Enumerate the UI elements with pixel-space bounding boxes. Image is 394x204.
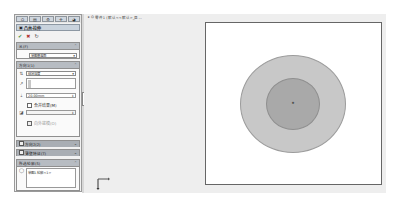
spinner-icon[interactable]: ⇕ <box>71 111 74 115</box>
reverse-direction-icon[interactable]: ⇅ <box>19 71 24 76</box>
cancel-button[interactable]: ✖ <box>26 33 30 39</box>
chevron-down-icon: ▾ <box>72 72 74 76</box>
manager-tabs: ⛭ ▤ ⚙ ✛ ◕ <box>15 15 81 23</box>
draft-outward-checkbox[interactable] <box>27 121 32 126</box>
from-start-value: 草图基准面 <box>31 53 46 58</box>
from-group-header[interactable]: 从(F) ⌃ <box>17 43 79 50</box>
detail-preview-button[interactable]: ↻ <box>34 33 38 39</box>
end-condition-value: 给定深度 <box>28 71 40 76</box>
feature-tree-breadcrumb[interactable]: ▸ ⛭ 零件1 (默认<<默认>_显... <box>88 14 142 20</box>
dimxpert-icon: ✛ <box>59 17 62 22</box>
property-manager-panel: ⛭ ▤ ⚙ ✛ ◕ ▣ 凸台-拉伸 ✔ ✖ ↻ 从(F) ⌃ 草图基准面 ▾ 方… <box>14 14 82 192</box>
feature-manager-icon: ⛭ <box>21 17 24 22</box>
reference-triad-icon <box>96 176 110 190</box>
extrude-icon: ▣ <box>19 25 23 30</box>
part-icon: ⛭ <box>91 15 94 19</box>
merge-result-checkbox[interactable] <box>27 103 32 108</box>
direction-vector-icon: ↗ <box>19 81 24 86</box>
direction2-checkbox[interactable] <box>19 141 24 146</box>
direction2-group: 方向2(2) ⌄ <box>16 140 80 147</box>
contour-icon: ◯ <box>19 168 24 173</box>
end-condition-dropdown[interactable]: 给定深度 ▾ <box>26 71 76 76</box>
expand-icon[interactable]: ⌄ <box>74 142 77 146</box>
chevron-down-icon: ▾ <box>73 54 75 58</box>
from-header-label: 从(F) <box>19 44 28 49</box>
thin-feature-group: 薄壁特征(T) ⌄ <box>16 149 80 156</box>
collapse-icon[interactable]: ⌃ <box>74 63 77 67</box>
from-group: 从(F) ⌃ 草图基准面 ▾ <box>16 42 80 59</box>
origin-marker[interactable]: ✚ <box>289 101 297 105</box>
breadcrumb-text: 零件1 (默认<<默认>_显... <box>95 15 142 20</box>
display-manager-icon: ◕ <box>72 17 76 22</box>
draft-outward-label: 向外拔模(O) <box>34 120 56 126</box>
selected-contours-header[interactable]: 所选轮廓(S) ⌃ <box>17 160 79 167</box>
direction1-group: 方向1(1) ⌃ ⇅ 给定深度 ▾ ↗ ⇣ 20.00mm ⇕ 合并结果(M) <box>16 61 80 137</box>
action-buttons: ✔ ✖ ↻ <box>18 33 39 39</box>
collapse-icon[interactable]: ⌃ <box>74 44 77 48</box>
depth-input[interactable]: 20.00mm ⇕ <box>26 93 76 98</box>
feature-title: 凸台-拉伸 <box>24 25 42 31</box>
selected-contours-group: 所选轮廓(S) ⌃ ◯ 草图1-轮廓<1> <box>16 159 80 191</box>
direction2-group-header[interactable]: 方向2(2) ⌄ <box>17 141 79 147</box>
direction2-header-label: 方向2(2) <box>25 143 40 147</box>
collapse-icon[interactable]: ⌃ <box>74 161 77 165</box>
direction-vector-listbox[interactable] <box>26 78 76 89</box>
origin-icon: ✚ <box>292 101 295 105</box>
direction1-header-label: 方向1(1) <box>19 63 34 68</box>
property-manager-icon: ▤ <box>33 17 37 22</box>
tab-feature-manager[interactable]: ⛭ <box>16 16 28 22</box>
expand-icon[interactable]: ⌄ <box>74 151 77 155</box>
draft-angle-input[interactable]: ⇕ <box>26 110 76 115</box>
depth-value: 20.00mm <box>28 94 44 98</box>
thin-feature-group-header[interactable]: 薄壁特征(T) ⌄ <box>17 150 79 156</box>
configuration-manager-icon: ⚙ <box>46 17 50 22</box>
tab-dimxpert-manager[interactable]: ✛ <box>55 16 67 22</box>
thin-feature-checkbox[interactable] <box>19 150 24 155</box>
draft-icon[interactable]: ◪ <box>19 110 24 115</box>
selected-contours-listbox[interactable]: 草图1-轮廓<1> <box>26 168 76 188</box>
thin-feature-header-label: 薄壁特征(T) <box>25 152 46 156</box>
selected-contours-header-label: 所选轮廓(S) <box>19 161 40 166</box>
tab-property-manager[interactable]: ▤ <box>29 16 41 22</box>
from-start-dropdown[interactable]: 草图基准面 ▾ <box>29 53 77 58</box>
direction1-group-header[interactable]: 方向1(1) ⌃ <box>17 62 79 69</box>
spinner-icon[interactable]: ⇕ <box>71 94 74 98</box>
feature-title-bar: ▣ 凸台-拉伸 <box>16 24 80 31</box>
tab-display-manager[interactable]: ◕ <box>68 16 80 22</box>
listbox-selection-bar <box>28 80 31 88</box>
depth-icon: ⇣ <box>19 93 24 98</box>
tab-configuration-manager[interactable]: ⚙ <box>42 16 54 22</box>
expand-arrow-icon[interactable]: ▸ <box>88 15 90 19</box>
contour-item[interactable]: 草图1-轮廓<1> <box>28 171 51 175</box>
merge-result-label: 合并结果(M) <box>34 102 57 108</box>
ok-button[interactable]: ✔ <box>18 33 22 39</box>
